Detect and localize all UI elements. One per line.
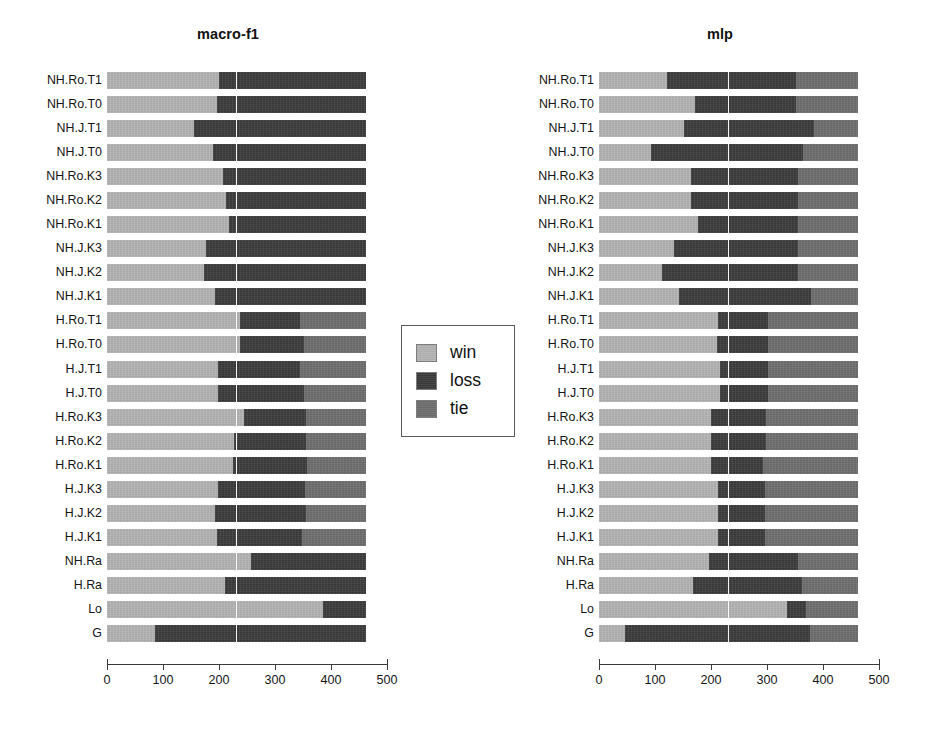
- bar-segment-win: [599, 312, 718, 329]
- bar-segment-loss: [223, 168, 366, 185]
- x-axis-tick-label: 300: [255, 673, 295, 687]
- bar-row: [599, 288, 879, 305]
- bar-segment-loss: [693, 577, 802, 594]
- bar-row: [107, 577, 387, 594]
- bar-segment-loss: [217, 529, 302, 546]
- bar-segment-loss: [240, 312, 300, 329]
- bar-segment-loss: [691, 192, 797, 209]
- bar-segment-loss: [215, 505, 306, 522]
- y-axis-tick-label: NH.Ro.K2: [46, 192, 102, 209]
- bar-segment-win: [107, 481, 218, 498]
- panel-title-right: mlp: [486, 26, 936, 42]
- legend-label: win: [450, 344, 476, 362]
- bar-segment-win: [599, 385, 720, 402]
- bar-segment-loss: [218, 481, 305, 498]
- bar-segment-loss: [718, 529, 766, 546]
- y-axis-tick-label: NH.Ro.T1: [47, 72, 102, 89]
- bar-segment-loss: [711, 457, 763, 474]
- legend-swatch-tie: [416, 400, 437, 418]
- bar-segment-tie: [810, 625, 858, 642]
- bar-segment-tie: [806, 601, 858, 618]
- bar-segment-loss: [674, 240, 798, 257]
- bar-segment-tie: [765, 529, 857, 546]
- legend-label: loss: [450, 372, 481, 390]
- bar-segment-loss: [709, 553, 799, 570]
- bar-row: [599, 433, 879, 450]
- bar-row: [599, 577, 879, 594]
- bar-segment-win: [107, 168, 223, 185]
- y-axis-tick-label: NH.Ra: [65, 553, 102, 570]
- y-axis-tick-label: NH.Ra: [557, 553, 594, 570]
- plot-area-left: [107, 68, 387, 646]
- bar-segment-win: [599, 481, 718, 498]
- legend-item: tie: [416, 396, 468, 422]
- y-axis-tick-label: H.J.K1: [557, 529, 594, 546]
- bar-segment-win: [107, 288, 215, 305]
- y-axis-tick-label: NH.J.T0: [549, 144, 594, 161]
- bar-segment-tie: [811, 288, 858, 305]
- bar-segment-loss: [229, 216, 366, 233]
- y-axis-tick-label: H.Ro.K1: [55, 457, 102, 474]
- bar-segment-tie: [798, 240, 857, 257]
- bar-segment-win: [107, 96, 217, 113]
- bar-segment-win: [599, 577, 693, 594]
- bar-segment-win: [599, 168, 691, 185]
- bar-segment-loss: [662, 264, 798, 281]
- chart-legend: winlosstie: [401, 325, 515, 437]
- bar-segment-win: [599, 120, 684, 137]
- bar-segment-loss: [667, 72, 796, 89]
- bar-row: [599, 240, 879, 257]
- y-axis-tick-label: H.Ra: [74, 577, 102, 594]
- y-axis-tick-label: NH.J.K2: [56, 264, 102, 281]
- bar-segment-tie: [798, 264, 858, 281]
- bar-segment-tie: [300, 361, 366, 378]
- bar-row: [107, 168, 387, 185]
- bar-segment-win: [599, 216, 698, 233]
- bar-segment-tie: [768, 336, 858, 353]
- bar-row: [107, 96, 387, 113]
- y-axis-tick-label: NH.Ro.T0: [47, 96, 102, 113]
- bar-row: [599, 72, 879, 89]
- bar-segment-loss: [711, 433, 766, 450]
- y-axis-tick-label: NH.J.T1: [549, 120, 594, 137]
- bar-segment-loss: [691, 168, 797, 185]
- bar-segment-win: [107, 385, 218, 402]
- y-axis-tick-label: H.J.T0: [66, 385, 103, 402]
- x-axis-tick-label: 0: [87, 673, 127, 687]
- bar-row: [599, 264, 879, 281]
- bar-segment-loss: [233, 457, 307, 474]
- y-axis-tick-label: H.J.K2: [65, 505, 102, 522]
- x-axis-end-cap: [599, 659, 600, 665]
- y-axis-tick-label: G: [584, 625, 594, 642]
- x-axis-tick: [219, 664, 220, 670]
- bar-row: [599, 481, 879, 498]
- bar-segment-win: [599, 192, 691, 209]
- bar-segment-win: [107, 312, 240, 329]
- bar-segment-loss: [684, 120, 814, 137]
- bar-segment-tie: [766, 433, 858, 450]
- y-axis-tick-label: NH.J.K3: [548, 240, 594, 257]
- x-axis-line-right: [599, 664, 879, 665]
- x-axis-tick-label: 100: [635, 673, 675, 687]
- x-axis-tick-label: 100: [143, 673, 183, 687]
- x-axis-tick-label: 500: [367, 673, 407, 687]
- y-axis-tick-label: H.J.K1: [65, 529, 102, 546]
- x-axis-tick-label: 200: [691, 673, 731, 687]
- bar-row: [599, 625, 879, 642]
- bar-segment-loss: [625, 625, 809, 642]
- y-axis-tick-label: H.J.T1: [558, 361, 595, 378]
- bar-row: [599, 409, 879, 426]
- bar-segment-loss: [711, 409, 766, 426]
- bar-segment-tie: [803, 144, 858, 161]
- y-axis-tick-label: H.Ro.K2: [547, 433, 594, 450]
- y-axis-tick-label: H.Ro.T1: [548, 312, 594, 329]
- bar-segment-win: [107, 577, 225, 594]
- bar-segment-loss: [217, 96, 366, 113]
- y-axis-tick-label: H.Ra: [566, 577, 594, 594]
- bar-segment-tie: [798, 216, 858, 233]
- bar-row: [107, 457, 387, 474]
- x-axis-tick-label: 200: [199, 673, 239, 687]
- bar-segment-tie: [304, 336, 366, 353]
- bar-row: [107, 240, 387, 257]
- y-axis-tick-label: H.Ro.T1: [56, 312, 102, 329]
